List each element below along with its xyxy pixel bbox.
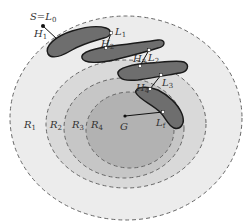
point-lf xyxy=(162,111,165,114)
label-goal: G xyxy=(120,121,128,132)
point-goal xyxy=(123,114,126,117)
point-l1 xyxy=(110,32,113,35)
label-h1: H1 xyxy=(33,28,47,41)
planning-diagram: S=L0 H1 L1 H2 H3 L2 L3 H4 Lf G R1 R2 R3 … xyxy=(0,0,248,224)
label-start: S=L0 xyxy=(30,11,56,24)
